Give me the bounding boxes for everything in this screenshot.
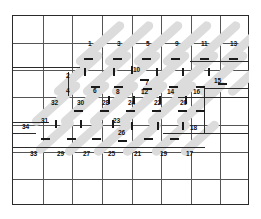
label-26: 26 [118, 130, 125, 137]
label-9: 9 [175, 41, 178, 48]
tick-mark [196, 110, 205, 112]
tick-mark [84, 68, 86, 76]
label-33: 33 [30, 151, 37, 158]
tick-mark [84, 58, 93, 60]
tick-mark [157, 122, 159, 130]
label-34: 34 [22, 124, 29, 131]
tick-mark [92, 138, 101, 140]
label-11: 11 [201, 41, 207, 48]
tick-mark [208, 68, 210, 76]
label-19: 19 [160, 151, 167, 158]
gridline-horizontal [13, 179, 248, 180]
step-rule [13, 67, 80, 68]
tick-mark [100, 110, 109, 112]
label-22: 22 [154, 100, 161, 107]
step-rule [12, 147, 205, 148]
gridline-horizontal [13, 152, 248, 153]
tick-mark [152, 110, 161, 112]
step-rule [13, 133, 36, 134]
tick-mark [118, 140, 127, 142]
gridline-horizontal [13, 43, 248, 44]
label-14: 14 [167, 89, 174, 96]
label-30: 30 [77, 100, 84, 107]
gridline-vertical [161, 16, 162, 204]
label-21: 21 [134, 151, 141, 158]
label-20: 20 [180, 100, 187, 107]
label-17: 17 [186, 151, 193, 158]
step-rule [178, 97, 248, 98]
label-16: 16 [193, 89, 200, 96]
tick-mark [170, 138, 179, 140]
tick-mark [200, 58, 209, 60]
label-15: 15 [214, 78, 221, 85]
label-12: 12 [141, 89, 148, 96]
tick-mark [144, 138, 153, 140]
label-3: 3 [117, 41, 120, 48]
label-27: 27 [83, 151, 90, 158]
label-5: 5 [146, 41, 149, 48]
gridline-vertical [220, 16, 221, 204]
tick-mark [113, 68, 115, 76]
tick-mark [182, 68, 184, 76]
label-2: 2 [66, 73, 69, 80]
tick-mark [55, 120, 57, 128]
label-6: 6 [93, 88, 96, 95]
step-rule [205, 88, 248, 89]
label-13: 13 [230, 41, 237, 48]
tick-mark [178, 110, 187, 112]
tick-mark [182, 122, 184, 130]
label-18: 18 [190, 125, 197, 132]
gridline-vertical [191, 16, 192, 204]
tick-mark [80, 120, 82, 128]
label-4: 4 [66, 88, 69, 95]
tick-mark [156, 68, 158, 76]
tick-mark [67, 138, 76, 140]
tick-mark [41, 138, 50, 140]
gridline-vertical [43, 16, 44, 204]
tick-mark [113, 58, 122, 60]
step-rule [163, 133, 248, 134]
label-25: 25 [108, 151, 115, 158]
tick-mark [171, 58, 180, 60]
label-8: 8 [116, 89, 119, 96]
tick-mark [142, 58, 151, 60]
label-32: 32 [51, 100, 58, 107]
label-28: 28 [102, 100, 109, 107]
label-24: 24 [128, 100, 135, 107]
tick-mark [126, 110, 135, 112]
label-23: 23 [113, 118, 120, 125]
tick-mark [131, 122, 133, 130]
label-29: 29 [57, 151, 64, 158]
label-31: 31 [41, 118, 48, 125]
diagram-canvas: 1 3 5 9 11 13 2 10 7 15 4 6 8 12 14 16 3… [0, 0, 261, 219]
tick-mark [74, 110, 83, 112]
label-7: 7 [145, 80, 148, 87]
label-1: 1 [88, 41, 91, 48]
step-rule [190, 61, 248, 62]
tick-mark [229, 58, 238, 60]
label-10: 10 [133, 67, 140, 74]
